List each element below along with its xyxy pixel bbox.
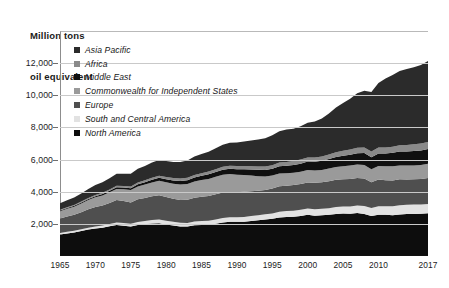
legend-item-label: Commonwealth for Independent States — [85, 86, 238, 96]
x-axis-baseline — [60, 255, 428, 256]
legend-swatch-icon — [74, 61, 80, 67]
x-tick-label-1965: 1965 — [50, 260, 69, 270]
x-tick-label-2005: 2005 — [334, 260, 353, 270]
legend-swatch-icon — [74, 102, 80, 108]
legend-item-label: Europe — [85, 100, 113, 110]
y-axis-labels: 2,0004,0006,0008,00010,00012,000 — [0, 31, 53, 256]
x-tick-label-1995: 1995 — [263, 260, 282, 270]
x-tick-label-1985: 1985 — [192, 260, 211, 270]
gridline-4000 — [60, 192, 428, 193]
y-tick-label-12000: 12,000 — [5, 58, 53, 68]
y-tick-label-4000: 4,000 — [5, 187, 53, 197]
legend-swatch-icon — [74, 74, 80, 80]
gridline-6000 — [60, 160, 428, 161]
y-tick-mark — [53, 160, 58, 161]
y-tick-label-8000: 8,000 — [5, 122, 53, 132]
y-tick-mark — [53, 192, 58, 193]
x-tick-label-1975: 1975 — [121, 260, 140, 270]
legend-item-middle-east[interactable]: Middle East — [74, 71, 304, 85]
legend-item-label: North America — [85, 128, 141, 138]
legend-item-europe[interactable]: Europe — [74, 98, 304, 112]
legend-swatch-icon — [74, 130, 80, 136]
y-tick-mark — [53, 127, 58, 128]
legend-item-africa[interactable]: Africa — [74, 57, 304, 71]
x-tick-label-2017: 2017 — [418, 260, 437, 270]
legend-item-north-america[interactable]: North America — [74, 126, 304, 140]
x-axis-labels: 1965197019751980198519901995200020052010… — [60, 260, 428, 274]
legend-item-label: Middle East — [85, 72, 131, 82]
legend-item-label: South and Central America — [85, 114, 190, 124]
x-tick-label-2000: 2000 — [298, 260, 317, 270]
legend-swatch-icon — [74, 47, 80, 53]
y-tick-label-6000: 6,000 — [5, 155, 53, 165]
x-tick-label-1990: 1990 — [227, 260, 246, 270]
y-tick-mark — [53, 63, 58, 64]
y-tick-label-2000: 2,000 — [5, 219, 53, 229]
legend-item-asia-pacific[interactable]: Asia Pacific — [74, 43, 304, 57]
legend-item-south-and-central-america[interactable]: South and Central America — [74, 112, 304, 126]
legend-item-label: Africa — [85, 59, 108, 69]
legend-item-commonwealth-for-independent-states[interactable]: Commonwealth for Independent States — [74, 84, 304, 98]
legend-item-label: Asia Pacific — [85, 45, 131, 55]
legend-swatch-icon — [74, 88, 80, 94]
x-tick-label-1980: 1980 — [157, 260, 176, 270]
x-tick-label-2010: 2010 — [369, 260, 388, 270]
chart-legend: Asia PacificAfricaMiddle EastCommonwealt… — [74, 43, 304, 140]
y-tick-mark — [53, 95, 58, 96]
gridline-2000 — [60, 224, 428, 225]
x-tick-label-1970: 1970 — [86, 260, 105, 270]
legend-swatch-icon — [74, 116, 80, 122]
y-tick-label-10000: 10,000 — [5, 90, 53, 100]
y-tick-mark — [53, 224, 58, 225]
